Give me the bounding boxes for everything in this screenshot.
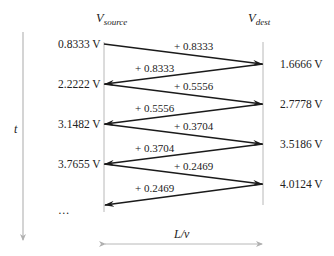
source-header: Vsource bbox=[96, 11, 127, 27]
source-level: 2.2222 V bbox=[58, 78, 101, 90]
source-ellipsis: … bbox=[58, 204, 70, 216]
source-level: 3.1482 V bbox=[58, 118, 101, 130]
dest-level: 3.5186 V bbox=[280, 138, 323, 150]
dest-level: 1.6666 V bbox=[280, 58, 323, 70]
increment-label: + 0.2469 bbox=[135, 182, 175, 194]
source-level: 3.7655 V bbox=[58, 158, 101, 170]
source-level: 0.8333 V bbox=[58, 38, 101, 50]
increment-label: + 0.2469 bbox=[174, 160, 214, 172]
dest-level: 2.7778 V bbox=[280, 98, 323, 110]
bounce-diagram: t Vsource Vdest 0.8333 V 2.2222 V 3.1482… bbox=[0, 0, 334, 256]
span-label: L/v bbox=[173, 227, 190, 241]
increment-label: + 0.3704 bbox=[135, 142, 175, 154]
increment-label: + 0.8333 bbox=[174, 40, 214, 52]
time-axis-label: t bbox=[14, 122, 18, 136]
increment-label: + 0.3704 bbox=[174, 120, 214, 132]
increment-label: + 0.8333 bbox=[135, 62, 175, 74]
dest-level: 4.0124 V bbox=[280, 178, 323, 190]
dest-header: Vdest bbox=[248, 11, 271, 27]
increment-label: + 0.5556 bbox=[135, 102, 175, 114]
wave-arrow bbox=[105, 184, 263, 205]
increment-label: + 0.5556 bbox=[174, 80, 214, 92]
